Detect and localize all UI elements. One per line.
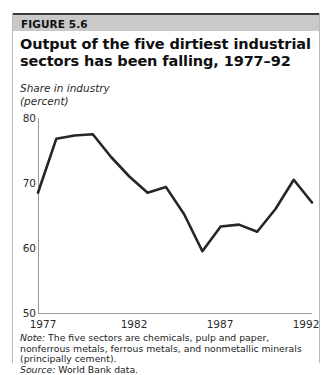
x-tick-1982: 1982 <box>114 318 154 330</box>
note-text: The five sectors are chemicals, pulp and… <box>20 332 302 364</box>
y-tick-80: 80 <box>16 112 36 124</box>
x-tick-1987: 1987 <box>200 318 240 330</box>
note-line: Note: The five sectors are chemicals, pu… <box>20 333 315 365</box>
note-lead: Note: <box>20 332 45 343</box>
x-tick-1977: 1977 <box>23 318 63 330</box>
figure-footnotes: Note: The five sectors are chemicals, pu… <box>20 333 315 375</box>
y-tick-70: 70 <box>16 177 36 189</box>
source-line: Source: World Bank data. <box>20 365 315 375</box>
data-series-line <box>38 134 312 251</box>
source-text: World Bank data. <box>55 364 138 375</box>
y-tick-60: 60 <box>16 242 36 254</box>
source-lead: Source: <box>20 364 55 375</box>
x-tick-1992: 1992 <box>286 318 326 330</box>
